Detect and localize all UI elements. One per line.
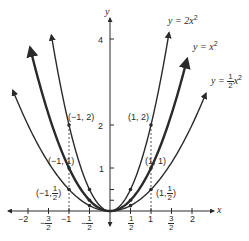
data-point-dot	[67, 166, 71, 170]
point-label-1-half: (1,12)	[156, 185, 176, 202]
data-point-dot	[67, 123, 71, 127]
x-tick-minus-3-2: −32	[40, 215, 52, 232]
data-point-dot	[88, 198, 92, 202]
x-axis-label: x	[217, 205, 221, 215]
data-point-dot	[67, 188, 71, 192]
fraction: 32	[45, 215, 51, 232]
x-tick-minus-1-2: −12	[81, 215, 93, 232]
data-point-dot	[129, 204, 133, 208]
x-tick-2: 2	[190, 215, 195, 224]
y-tick-1: 1	[99, 165, 104, 174]
curve-label-half-x2: y = 12x2	[211, 73, 242, 90]
x-tick-3-2: 32	[168, 215, 174, 232]
curve-label-2x2: y = 2x2	[168, 14, 198, 26]
y-axis-label: y	[105, 7, 109, 17]
data-point-dot	[88, 188, 92, 192]
data-point-dot	[88, 204, 92, 208]
point-label-1-2: (1, 2)	[128, 113, 149, 122]
x-tick-minus-2: −2	[18, 215, 28, 224]
data-point-dot	[129, 198, 133, 202]
point-label-neg1-2: (−1, 2)	[68, 113, 94, 122]
data-point-dot	[149, 188, 153, 192]
y-tick-2: 2	[98, 122, 103, 131]
fraction: 32	[168, 215, 174, 232]
point-label-neg1-half: (−1,12)	[36, 185, 61, 202]
point-label-neg1-1: (−1, 1)	[48, 157, 74, 166]
curve-label-x2: y = x2	[193, 40, 218, 52]
y-tick-4: 4	[98, 36, 103, 45]
parabola-plot	[0, 0, 249, 241]
x-tick-1: 1	[148, 215, 153, 224]
fraction: 12	[128, 215, 134, 232]
x-tick-1-2: 12	[128, 215, 134, 232]
point-label-1-1: (1, 1)	[145, 157, 166, 166]
x-tick-minus-1: −1	[61, 215, 71, 224]
fraction: 12	[86, 215, 92, 232]
data-point-dot	[149, 123, 153, 127]
data-point-dot	[149, 166, 153, 170]
data-point-dot	[129, 188, 133, 192]
